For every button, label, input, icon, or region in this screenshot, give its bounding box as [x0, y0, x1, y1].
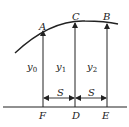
label-point-b: B	[103, 12, 110, 22]
label-point-d: D	[72, 111, 80, 121]
label-point-a: A	[39, 22, 46, 32]
curve	[15, 21, 118, 53]
label-point-c: C	[72, 12, 80, 22]
label-spacing-1: S	[57, 88, 64, 98]
label-y0: y0	[27, 62, 37, 74]
label-point-f: F	[39, 111, 46, 121]
label-y0-sub: 0	[33, 66, 37, 74]
label-y2: y2	[87, 62, 97, 74]
label-y1-sub: 1	[62, 66, 66, 74]
label-y1: y1	[56, 62, 66, 74]
label-y2-sub: 2	[93, 66, 97, 74]
label-point-e: E	[102, 111, 109, 121]
diagram-canvas: A C B F D E y0 y1 y2 S S	[0, 0, 129, 127]
label-spacing-2: S	[88, 88, 95, 98]
